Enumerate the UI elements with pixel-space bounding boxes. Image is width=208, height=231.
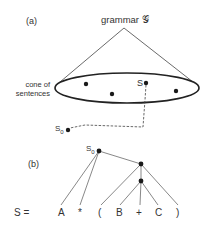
token-plus: + — [136, 207, 142, 218]
token-star: * — [78, 207, 82, 218]
sentence-dot — [174, 89, 178, 93]
token-close-paren: ) — [176, 207, 179, 218]
derivation-path — [70, 85, 146, 128]
sentence-dot-s — [144, 81, 148, 85]
s0-label-a-sub: 0 — [60, 129, 63, 135]
s0-dot-a — [66, 128, 70, 132]
s0-label-a: S0 — [55, 124, 64, 137]
parse-tree — [61, 151, 178, 205]
tree-root-node — [97, 149, 102, 154]
s-label: S — [137, 78, 143, 88]
tree-root-label-sub: 0 — [91, 149, 94, 155]
token-s-equals: S = — [14, 207, 29, 218]
tree-root-label: S0 — [86, 144, 95, 157]
token-b: B — [116, 207, 123, 218]
tree-node — [139, 162, 144, 167]
cone-label-line2: sentences — [8, 89, 50, 98]
token-c: C — [155, 207, 162, 218]
sentence-ellipse — [55, 73, 199, 103]
diagram-canvas — [0, 0, 208, 231]
tree-node — [139, 179, 144, 184]
panel-a-label: (a) — [26, 16, 37, 26]
token-a: A — [58, 207, 65, 218]
grammar-title: grammar 𝒢 — [101, 15, 149, 25]
sentence-dot — [110, 92, 114, 96]
panel-b-label: (b) — [28, 159, 39, 169]
token-open-paren: ( — [98, 207, 101, 218]
cone-label-line1: cone of — [8, 80, 50, 89]
sentence-dot — [84, 82, 88, 86]
cone-label: cone of sentences — [8, 80, 50, 98]
